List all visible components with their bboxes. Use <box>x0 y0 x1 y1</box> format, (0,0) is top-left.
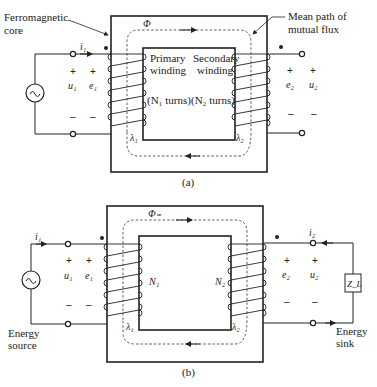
energy-sink-label-1: Energy <box>336 325 368 337</box>
flux-label-b: Φ₌ <box>148 208 162 219</box>
lambda2-label-a: λ₂ <box>235 132 244 143</box>
u2-minus-a: – <box>311 108 317 119</box>
e1-plus-a: + <box>90 66 96 77</box>
figure-b: Z_L Φ₌ i₁ i₂ + + u₁ e₁ – – N₁ N₂ + + e₂ … <box>8 206 368 379</box>
n2-label-b: N₂ <box>214 276 226 287</box>
terminal-primary-top-b <box>65 241 70 246</box>
terminal-secondary-top-a <box>299 51 304 56</box>
u2-label-b: u₂ <box>310 269 319 280</box>
i2-label-b: i₂ <box>309 227 316 238</box>
u1-minus-a: – <box>70 111 76 122</box>
terminal-primary-bottom-b <box>65 321 70 326</box>
core-leader-line <box>68 20 108 35</box>
core-label-1: Ferromagnetic <box>4 11 68 23</box>
e1-plus-b: + <box>86 255 92 266</box>
e1-label-a: e₁ <box>89 80 97 91</box>
lambda1-label-a: λ₁ <box>129 132 138 143</box>
primary-winding-label-1: Primary <box>150 52 186 64</box>
terminal-secondary-bottom-a <box>299 130 304 135</box>
e2-minus-a: – <box>288 108 294 119</box>
mean-path-leader-line <box>253 17 285 34</box>
polarity-dot-primary-a <box>104 46 108 50</box>
ac-source-icon <box>26 84 44 102</box>
u2-label-a: u₂ <box>309 79 318 90</box>
terminal-primary-top-a <box>70 51 75 56</box>
primary-winding-label-2: winding <box>150 64 187 76</box>
flux-label-a: Φ <box>143 18 151 29</box>
i1-label-b: i₁ <box>35 231 41 242</box>
u2-minus-b: – <box>312 296 318 307</box>
lambda1-label-b: λ₁ <box>125 321 134 332</box>
u1-plus-b: + <box>66 255 72 266</box>
e1-minus-a: – <box>90 111 96 122</box>
n1-turns-label: (N₁ turns) <box>147 94 191 107</box>
e2-plus-b: + <box>284 255 290 266</box>
u1-plus-a: + <box>70 66 76 77</box>
polarity-dot-secondary-b <box>275 235 279 239</box>
core-outer-b <box>107 206 263 362</box>
caption-b: (b) <box>182 366 195 379</box>
u2-plus-b: + <box>312 255 318 266</box>
n2-turns-label: (N₂ turns) <box>191 94 235 107</box>
u2-plus-a: + <box>310 65 316 76</box>
energy-source-label-2: source <box>8 339 37 351</box>
u1-minus-b: – <box>66 299 72 310</box>
load-impedance-label: Z_L <box>347 279 362 289</box>
secondary-winding-label-1: Secondary <box>193 52 240 64</box>
lambda2-label-b: λ₂ <box>231 321 240 332</box>
terminal-primary-bottom-a <box>70 131 75 136</box>
n1-label-b: N₁ <box>148 276 159 287</box>
e1-minus-b: – <box>86 299 92 310</box>
mean-path-label-2: mutual flux <box>288 23 340 35</box>
transformer-diagrams: Ferromagnetic core Mean path of mutual f… <box>0 0 377 387</box>
i1-label-a: i₁ <box>80 41 86 52</box>
e1-label-b: e₁ <box>85 270 93 281</box>
u1-label-a: u₁ <box>68 80 76 91</box>
core-label-2: core <box>4 24 23 36</box>
polarity-dot-secondary-a <box>279 45 283 49</box>
terminal-secondary-top-b <box>310 240 315 245</box>
mean-path-label-1: Mean path of <box>288 10 347 22</box>
ac-source-icon-b <box>22 271 40 289</box>
e2-label-b: e₂ <box>282 269 290 280</box>
e2-minus-b: – <box>284 296 290 307</box>
u1-label-b: u₁ <box>64 270 72 281</box>
energy-source-label-1: Energy <box>8 327 40 339</box>
e2-label-a: e₂ <box>286 79 294 90</box>
secondary-winding-label-2: winding <box>197 64 234 76</box>
caption-a: (a) <box>182 176 195 189</box>
terminal-secondary-bottom-b <box>310 320 315 325</box>
figure-a: Ferromagnetic core Mean path of mutual f… <box>4 10 347 189</box>
polarity-dot-primary-b <box>100 236 104 240</box>
energy-sink-label-2: sink <box>336 337 355 349</box>
e2-plus-a: + <box>287 65 293 76</box>
